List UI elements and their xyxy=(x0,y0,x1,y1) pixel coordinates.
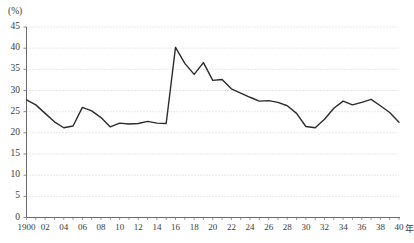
x-tick-label: 1900 xyxy=(18,222,36,232)
x-tick-label: 24 xyxy=(246,222,255,232)
y-tick-label: 20 xyxy=(0,127,20,137)
x-tick-label: 08 xyxy=(97,222,106,232)
y-tick-label: 5 xyxy=(0,190,20,200)
x-tick-label: 16 xyxy=(171,222,180,232)
y-tick-label: 10 xyxy=(0,169,20,179)
x-tick-label: 06 xyxy=(78,222,87,232)
x-tick-label: 12 xyxy=(134,222,143,232)
x-tick-label: 22 xyxy=(227,222,236,232)
x-tick-label: 26 xyxy=(264,222,273,232)
y-tick-label: 35 xyxy=(0,63,20,73)
x-tick-label: 18 xyxy=(190,222,199,232)
y-tick-label: 0 xyxy=(0,212,20,222)
x-tick-label: 28 xyxy=(283,222,292,232)
y-tick-label: 15 xyxy=(0,148,20,158)
x-tick-label: 10 xyxy=(115,222,124,232)
x-tick-label: 40 xyxy=(395,222,404,232)
y-tick-label: 25 xyxy=(0,106,20,116)
x-axis-unit-label: 年 xyxy=(405,222,414,235)
x-tick-label: 30 xyxy=(301,222,310,232)
y-tick-label: 40 xyxy=(0,42,20,52)
gridlines xyxy=(27,27,400,196)
x-tick-label: 36 xyxy=(357,222,366,232)
data-series-line xyxy=(27,47,400,127)
x-tick-label: 38 xyxy=(376,222,385,232)
x-tick-label: 34 xyxy=(339,222,348,232)
x-tick-label: 04 xyxy=(59,222,68,232)
x-tick-label: 14 xyxy=(152,222,161,232)
x-tick-label: 20 xyxy=(208,222,217,232)
x-tick-label: 02 xyxy=(41,222,50,232)
x-tick-label: 32 xyxy=(320,222,329,232)
y-tick-label: 45 xyxy=(0,21,20,31)
y-tick-label: 30 xyxy=(0,85,20,95)
